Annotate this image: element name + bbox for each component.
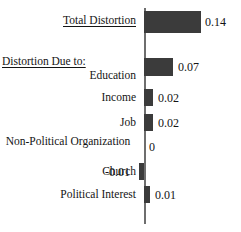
category-label-non-political-organization: Non-Political Organization — [0, 135, 136, 148]
category-label-total-distortion: Total Distortion — [0, 14, 136, 27]
bar-income — [144, 89, 153, 106]
table-row: Total Distortion 0.14 — [0, 11, 241, 33]
category-label-job: Job — [0, 116, 136, 129]
distortion-bar-chart: Total Distortion 0.14 Distortion Due to:… — [0, 0, 241, 232]
category-label-education: Education — [0, 69, 136, 82]
table-row: Education 0.07 — [0, 58, 241, 76]
table-row: Job 0.02 — [0, 114, 241, 131]
table-row: Church -0.01 — [0, 163, 241, 180]
value-label-income: 0.02 — [158, 92, 179, 104]
value-label-education: 0.07 — [178, 61, 199, 73]
bar-total-distortion — [144, 11, 201, 33]
table-row: Political Interest 0.01 — [0, 186, 241, 203]
bar-church — [139, 163, 144, 180]
table-row: Non-Political Organization 0 — [0, 135, 241, 161]
value-label-non-political-organization: 0 — [149, 141, 155, 153]
bar-education — [144, 58, 173, 76]
value-label-political-interest: 0.01 — [155, 189, 176, 201]
category-label-political-interest: Political Interest — [0, 188, 136, 201]
table-row: Income 0.02 — [0, 89, 241, 106]
category-label-income: Income — [0, 91, 136, 104]
value-label-job: 0.02 — [158, 117, 179, 129]
bar-political-interest — [144, 186, 150, 203]
value-label-church: -0.01 — [105, 166, 130, 178]
bar-job — [144, 114, 153, 131]
value-label-total-distortion: 0.14 — [205, 16, 226, 28]
